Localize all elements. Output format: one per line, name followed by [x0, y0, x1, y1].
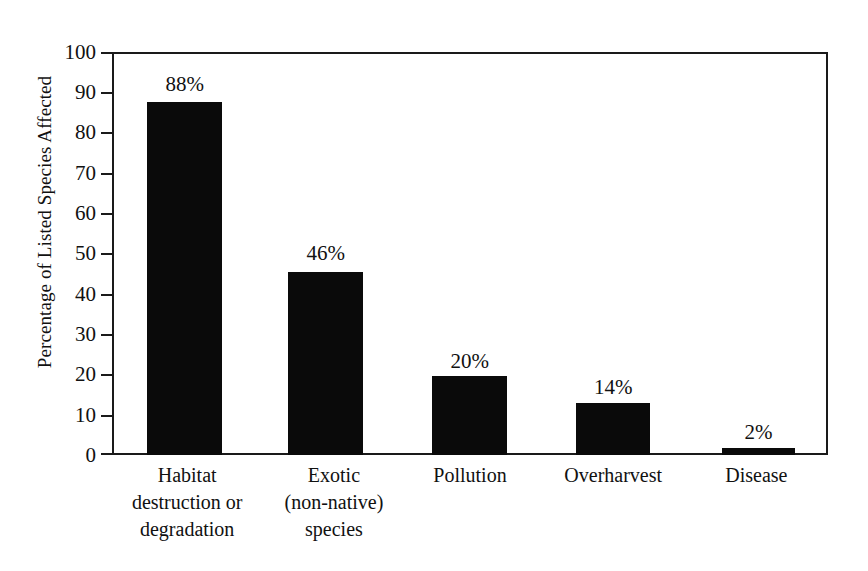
- y-tick-mark-60: [101, 213, 112, 215]
- category-line: degradation: [105, 516, 270, 543]
- category-line: Exotic: [266, 462, 402, 489]
- bar-value-overharvest: 14%: [576, 377, 650, 398]
- category-label-exotic-species: Exotic (non-native) species: [266, 462, 402, 543]
- category-line: Pollution: [406, 462, 535, 489]
- y-tick-mark-30: [101, 334, 112, 336]
- y-tick-label-40: 40: [52, 284, 96, 305]
- y-tick-mark-20: [101, 374, 112, 376]
- y-tick-label-0: 0: [52, 445, 96, 466]
- y-tick-mark-70: [101, 173, 112, 175]
- category-label-overharvest: Overharvest: [545, 462, 681, 489]
- category-line: species: [266, 516, 402, 543]
- y-tick-label-60: 60: [52, 203, 96, 224]
- y-tick-label-100: 100: [52, 42, 96, 63]
- category-label-habitat-destruction: Habitat destruction or degradation: [105, 462, 270, 543]
- category-label-pollution: Pollution: [406, 462, 535, 489]
- bar-value-pollution: 20%: [432, 351, 507, 372]
- y-tick-label-80: 80: [52, 122, 96, 143]
- y-tick-label-30: 30: [52, 324, 96, 345]
- y-tick-label-90: 90: [52, 82, 96, 103]
- y-tick-mark-50: [101, 253, 112, 255]
- category-label-disease: Disease: [692, 462, 821, 489]
- y-axis-tick-labels: 100 90 80 70 60 50 40 30 20 10 0: [48, 0, 96, 571]
- category-line: Disease: [692, 462, 821, 489]
- category-line: destruction or: [105, 489, 270, 516]
- bar-value-disease: 2%: [722, 422, 795, 443]
- y-tick-label-50: 50: [52, 243, 96, 264]
- bar-value-habitat-destruction: 88%: [147, 74, 222, 95]
- bar-value-labels: 88% 46% 20% 14% 2%: [112, 52, 828, 455]
- bar-chart-figure: Percentage of Listed Species Affected 10…: [0, 0, 868, 571]
- y-tick-mark-80: [101, 132, 112, 134]
- category-line: (non-native): [266, 489, 402, 516]
- y-tick-mark-40: [101, 294, 112, 296]
- x-axis-category-labels: Habitat destruction or degradation Exoti…: [112, 462, 828, 567]
- bar-value-exotic-species: 46%: [288, 243, 363, 264]
- y-tick-label-10: 10: [52, 405, 96, 426]
- y-tick-label-70: 70: [52, 163, 96, 184]
- category-line: Overharvest: [545, 462, 681, 489]
- y-tick-mark-90: [101, 92, 112, 94]
- y-tick-mark-0: [101, 453, 112, 455]
- y-tick-mark-10: [101, 415, 112, 417]
- y-tick-label-20: 20: [52, 364, 96, 385]
- y-tick-mark-100: [101, 52, 112, 54]
- category-line: Habitat: [105, 462, 270, 489]
